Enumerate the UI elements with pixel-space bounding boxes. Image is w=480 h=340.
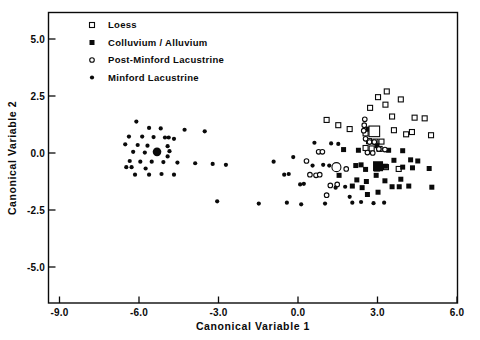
data-point [336, 142, 340, 146]
data-point [299, 202, 303, 206]
y-tick-label: -2.5 [27, 205, 45, 216]
data-point [134, 119, 138, 123]
legend-marker-filled-square [90, 40, 95, 45]
data-point [328, 183, 333, 188]
data-point [390, 184, 395, 189]
data-point [372, 140, 377, 145]
data-point [337, 173, 342, 178]
data-point [324, 117, 329, 122]
data-point [147, 173, 151, 177]
data-point [404, 132, 409, 137]
data-point [144, 166, 148, 170]
data-point [312, 141, 316, 145]
data-point [391, 158, 396, 163]
data-point [410, 165, 415, 170]
data-point [133, 173, 137, 177]
data-point [371, 201, 375, 205]
x-tick-label: -9.0 [50, 307, 68, 318]
data-point [377, 147, 382, 152]
legend-marker-open-square [90, 23, 95, 28]
data-point [143, 150, 147, 154]
data-point [379, 139, 384, 144]
data-point [406, 184, 411, 189]
data-point [390, 114, 395, 119]
data-point [140, 134, 144, 138]
data-point [203, 129, 207, 133]
data-point [287, 172, 291, 176]
data-point [163, 135, 167, 139]
data-point [368, 105, 373, 110]
data-point [429, 185, 434, 190]
data-point [376, 95, 381, 100]
legend-label: Colluvium / Alluvium [108, 37, 208, 48]
data-point [336, 123, 341, 128]
data-point [383, 164, 388, 169]
data-point [341, 147, 346, 152]
x-tick-label: 0.0 [291, 307, 306, 318]
data-point [129, 165, 133, 169]
data-point [365, 192, 370, 197]
data-point [172, 173, 176, 177]
data-point [211, 162, 215, 166]
data-point [397, 184, 402, 189]
data-point [359, 200, 363, 204]
legend-label: Minford Lacustrine [108, 72, 199, 83]
x-tick-label: 3.0 [370, 307, 385, 318]
data-point [136, 143, 140, 147]
data-point [400, 148, 405, 153]
data-point [391, 128, 396, 133]
canonical-variables-scatter-chart: -9.0-6.0-3.00.03.06.0 5.02.50.0-2.5-5.0 … [0, 0, 480, 340]
y-tick-label: 5.0 [30, 34, 45, 45]
data-point [429, 133, 434, 138]
data-point [166, 144, 170, 148]
data-point [159, 172, 163, 176]
legend-marker-filled-dot [90, 75, 94, 79]
data-point [343, 185, 347, 189]
x-axis-title: Canonical Variable 1 [196, 320, 310, 332]
data-point [361, 128, 366, 133]
data-point [422, 116, 427, 121]
centroid-marker [369, 126, 380, 137]
data-point [127, 134, 131, 138]
data-point [415, 158, 420, 163]
data-point [124, 165, 128, 169]
data-point [147, 126, 151, 130]
centroid-marker [153, 148, 162, 157]
data-point [308, 172, 313, 177]
data-point [150, 160, 154, 164]
y-axis-title: Canonical Variable 2 [6, 101, 18, 215]
data-point [167, 135, 171, 139]
data-point [182, 128, 186, 132]
data-point [304, 159, 309, 164]
data-point [131, 150, 135, 154]
data-point [166, 154, 170, 158]
data-point [321, 163, 325, 167]
data-point [215, 199, 219, 203]
data-point [291, 155, 295, 159]
data-point [327, 163, 331, 167]
data-point [310, 163, 314, 167]
data-point [175, 160, 179, 164]
data-point [224, 163, 228, 167]
data-point [362, 123, 367, 128]
data-point [320, 150, 325, 155]
data-point [350, 201, 354, 205]
data-point [161, 160, 165, 164]
data-point [363, 167, 368, 172]
data-point [356, 148, 361, 153]
x-tick-label: 6.0 [450, 307, 465, 318]
data-point [382, 178, 387, 183]
data-point [383, 102, 388, 107]
data-point [159, 126, 163, 130]
data-point [302, 182, 306, 186]
data-point [317, 172, 322, 177]
scatter-plot-figure: -9.0-6.0-3.00.03.06.0 5.02.50.0-2.5-5.0 … [0, 0, 480, 340]
data-point [298, 182, 302, 186]
y-tick-label: 2.5 [30, 91, 45, 102]
data-point [257, 202, 261, 206]
data-point [324, 193, 329, 198]
data-point [353, 163, 358, 168]
data-point [282, 173, 286, 177]
data-point [123, 142, 127, 146]
data-point [370, 151, 375, 156]
